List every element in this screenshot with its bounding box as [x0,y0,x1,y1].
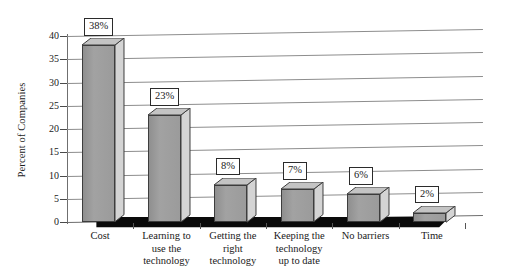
x-tick-3 [332,223,333,229]
x-tick-1 [200,223,201,229]
bar-top-face [82,38,125,46]
data-label-5: 2% [415,186,439,204]
data-label-2: 8% [216,158,240,176]
bar-front-face [413,213,446,222]
y-tick-15 [60,152,67,153]
bar-side-face [115,38,125,223]
y-tick-label-15: 15 [41,147,59,157]
bar-3[interactable] [281,189,314,222]
x-category-label-3: Keeping thetechnologyup to date [266,230,332,268]
x-category-line: technology [200,255,266,268]
bar-side-face [181,108,191,223]
bar-front-face [347,194,380,222]
gridline-30 [67,76,483,84]
y-tick-label-10: 10 [41,171,59,181]
x-category-label-2: Getting therighttechnology [200,230,266,268]
bar-top-face [281,182,324,190]
bar-top-face [347,187,390,195]
bar-1[interactable] [148,115,181,222]
y-tick-label-0: 0 [41,217,59,227]
gridline-40 [67,29,483,37]
x-category-label-4: No barriers [332,230,398,243]
gridline-15 [67,145,483,153]
x-tick-0 [133,223,134,229]
y-tick-label-40: 40 [41,31,59,41]
x-category-line: Learning to [133,230,199,243]
data-label-4: 6% [349,167,373,185]
x-category-line: Time [399,230,465,243]
x-category-label-1: Learning touse thetechnology [133,230,199,268]
y-axis-title: Percent of Companies [16,50,32,210]
x-category-label-5: Time [399,230,465,243]
bar-front-face [82,45,115,222]
bar-front-face [214,185,247,222]
y-tick-label-5: 5 [41,194,59,204]
x-category-label-0: Cost [67,230,133,243]
bar-4[interactable] [347,194,380,222]
y-tick-25 [60,106,67,107]
bar-top-face [413,206,456,214]
y-tick-35 [60,59,67,60]
x-category-line: use the [133,243,199,256]
x-category-line: Keeping the [266,230,332,243]
x-category-line: technology [266,243,332,256]
y-tick-label-35: 35 [41,54,59,64]
x-category-line: No barriers [332,230,398,243]
y-tick-label-25: 25 [41,101,59,111]
y-tick-label-30: 30 [41,78,59,88]
y-tick-0 [60,222,67,223]
data-label-1: 23% [150,88,179,106]
y-tick-40 [60,36,67,37]
data-label-3: 7% [283,162,307,180]
y-tick-20 [60,129,67,130]
bar-top-face [214,178,257,186]
bar-front-face [148,115,181,222]
x-tick-4 [399,223,400,229]
x-tick-5 [465,223,466,229]
x-category-line: up to date [266,255,332,268]
x-category-line: right [200,243,266,256]
bar-5[interactable] [413,213,446,222]
bar-2[interactable] [214,185,247,222]
gridline-10 [67,169,483,177]
x-category-line: Getting the [200,230,266,243]
gridline-35 [67,52,483,60]
x-category-line: Cost [67,230,133,243]
y-tick-5 [60,199,67,200]
gridline-20 [67,122,483,130]
bar-front-face [281,189,314,222]
x-tick-2 [266,223,267,229]
bar-top-face [148,108,191,116]
gridline-25 [67,99,483,107]
bar-chart: Percent of Companies 0510152025303540 38… [0,0,505,275]
bar-0[interactable] [82,45,115,222]
y-tick-label-20: 20 [41,124,59,134]
y-tick-30 [60,83,67,84]
y-tick-10 [60,176,67,177]
data-label-0: 38% [84,18,113,36]
x-category-line: technology [133,255,199,268]
